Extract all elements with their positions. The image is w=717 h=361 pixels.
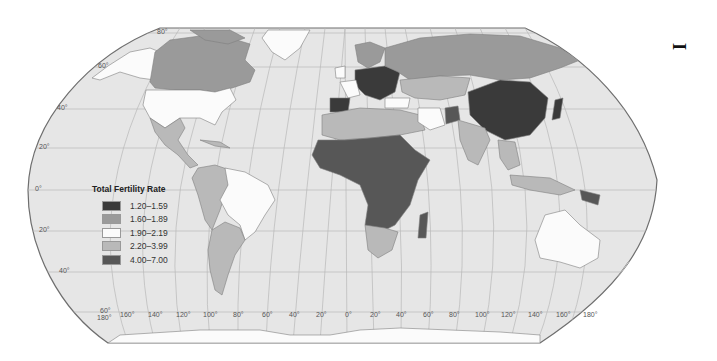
legend-label: 2.20–3.99: [130, 241, 168, 251]
lon-label-60e: 60°: [423, 311, 434, 318]
lat-label-60s: 60°: [100, 307, 111, 314]
lon-label-20w: 20°: [316, 311, 327, 318]
region-turkey: [385, 98, 410, 108]
legend-label: 4.00–7.00: [130, 255, 168, 265]
lon-label-140w: 140°: [148, 311, 162, 318]
legend-label: 1.20–1.59: [130, 201, 168, 211]
legend-swatch: [102, 228, 121, 238]
lon-label-100e: 100°: [475, 311, 489, 318]
legend-item: 2.20–3.99: [102, 240, 222, 254]
legend: Total Fertility Rate 1.20–1.59 1.60–1.89…: [92, 184, 222, 267]
legend-label: 1.60–1.89: [130, 214, 168, 224]
lat-label-20s: 20°: [39, 226, 50, 233]
region-iberia: [330, 98, 350, 112]
lon-label-40e: 40°: [396, 311, 407, 318]
lon-label-160e: 160°: [556, 311, 570, 318]
legend-title: Total Fertility Rate: [92, 184, 222, 194]
lon-label-140e: 140°: [528, 311, 542, 318]
lat-label-80n: 80°: [157, 28, 168, 35]
page-marker: I: [668, 43, 689, 50]
lon-label-160w: 160°: [120, 311, 134, 318]
legend-swatch: [102, 214, 121, 224]
region-canada: [150, 36, 255, 92]
lon-label-100w: 100°: [203, 311, 217, 318]
legend-swatch: [102, 201, 121, 211]
lat-label-0: 0°: [35, 185, 42, 192]
lon-label-180w: 180°: [97, 314, 111, 321]
legend-swatch: [102, 255, 121, 265]
world-map: 80° 60° 40° 20° 0° 20° 40° 60° 180° 160°…: [0, 0, 717, 361]
lat-label-40s: 40°: [59, 267, 70, 274]
legend-item: 1.20–1.59: [102, 199, 222, 213]
lat-label-40n: 40°: [57, 104, 68, 111]
legend-item: 1.60–1.89: [102, 213, 222, 227]
lon-label-20e: 20°: [370, 311, 381, 318]
lon-label-40w: 40°: [289, 311, 300, 318]
legend-label: 1.90–2.19: [130, 228, 168, 238]
lon-label-120w: 120°: [176, 311, 190, 318]
lon-label-80w: 80°: [233, 311, 244, 318]
lon-label-80e: 80°: [449, 311, 460, 318]
legend-swatch: [102, 241, 121, 251]
legend-item: 1.90–2.19: [102, 226, 222, 240]
lon-label-120e: 120°: [501, 311, 515, 318]
lat-label-20n: 20°: [39, 143, 50, 150]
lat-label-60n: 60°: [98, 62, 109, 69]
lon-label-60w: 60°: [262, 311, 273, 318]
lon-label-0: 0°: [345, 311, 352, 318]
region-uk: [335, 66, 345, 78]
legend-item: 4.00–7.00: [102, 253, 222, 267]
lon-label-180e: 180°: [583, 311, 597, 318]
